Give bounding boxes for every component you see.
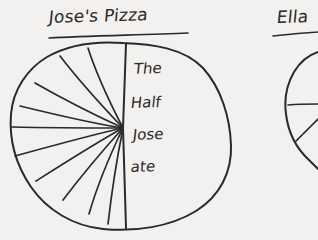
annotation-line-the: The — [133, 61, 163, 77]
annotation-line-ate: ate — [130, 159, 156, 175]
annotation-line-jose: Jose — [132, 127, 164, 143]
pizza-slice-line-9 — [89, 128, 123, 214]
annotation-line-half: Half — [130, 95, 162, 111]
pizza-slice-line-4 — [20, 106, 123, 128]
sketch-canvas: Jose's Pizza Ella The Half Jose ate — [0, 0, 318, 240]
pizza-slice-line-1 — [88, 48, 123, 128]
pizza-slice-line-5 — [12, 127, 123, 128]
pizza-slice-line-8 — [63, 128, 123, 200]
pizza-slice-line-3 — [35, 83, 123, 128]
pizza-title-joses: Jose's Pizza — [48, 6, 149, 26]
title-underline-joses — [49, 33, 188, 38]
pizza-title-ellas: Ella — [276, 8, 309, 26]
pizza-slice-line-6 — [15, 128, 123, 156]
title-underline-ellas — [273, 32, 318, 36]
ellas-slice-line-horizontal — [288, 104, 318, 105]
sketch-drawing — [0, 0, 318, 240]
pizza-diameter-line-lower — [123, 128, 126, 228]
pizza-diameter-line — [123, 44, 126, 128]
ellas-slice-line-diagonal — [296, 119, 318, 141]
pizza-outline-ellas — [285, 52, 318, 169]
